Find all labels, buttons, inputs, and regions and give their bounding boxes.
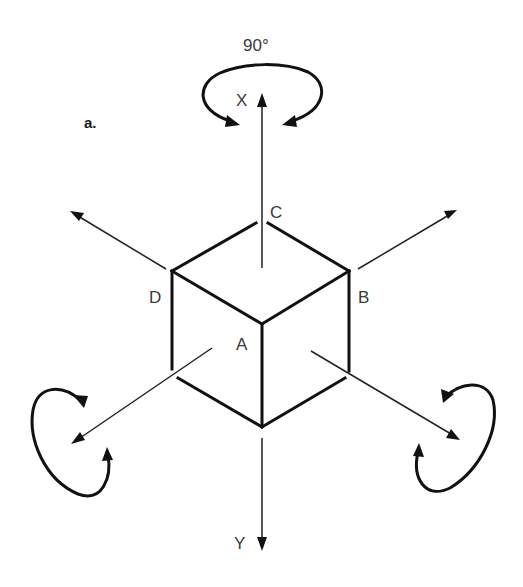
- rotation-angle-label: 90°: [243, 36, 269, 55]
- y-axis-label: Y: [234, 534, 245, 553]
- vertex-label-d: D: [149, 288, 161, 307]
- x-axis-label: X: [236, 91, 247, 110]
- cube-icon: [172, 223, 349, 427]
- panel-label: a.: [84, 114, 97, 131]
- lower-left-axis-arrow-icon: [71, 348, 212, 444]
- vertex-label-b: B: [358, 288, 369, 307]
- vertex-label-c: C: [270, 203, 282, 222]
- vertex-label-a: A: [236, 335, 248, 354]
- x-axis-arrow-icon: [257, 93, 267, 268]
- y-axis-arrow-icon: [257, 438, 267, 551]
- cube-rotation-diagram: a. 90° X C D B A: [0, 0, 523, 587]
- upper-left-axis-arrow-icon: [70, 211, 166, 269]
- upper-right-axis-arrow-icon: [358, 210, 457, 269]
- lower-right-axis-arrow-icon: [311, 351, 460, 440]
